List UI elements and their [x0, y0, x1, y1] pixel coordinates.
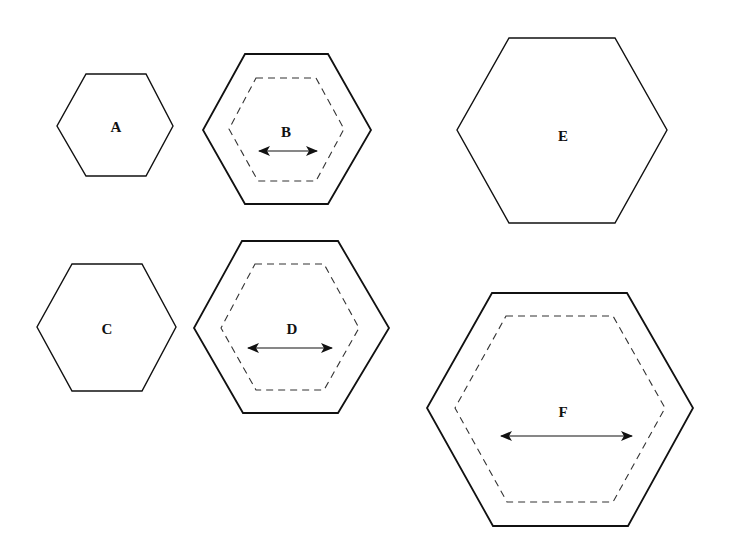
hexagon-b-label: B: [281, 124, 291, 140]
hexagon-c: C: [37, 264, 176, 391]
hexagon-a-label: A: [111, 119, 122, 135]
hexagon-a: A: [57, 74, 173, 176]
hexagon-d-label: D: [287, 321, 298, 337]
hexagon-e-label: E: [558, 128, 568, 144]
hexagon-c-label: C: [102, 321, 113, 337]
hexagon-e: E: [457, 38, 667, 223]
hexagon-f: F: [427, 293, 693, 526]
hexagon-diagram: A B C D E F: [0, 0, 729, 549]
hexagon-d: D: [194, 241, 389, 413]
hexagon-b: B: [203, 54, 371, 204]
hexagon-f-label: F: [558, 404, 567, 420]
